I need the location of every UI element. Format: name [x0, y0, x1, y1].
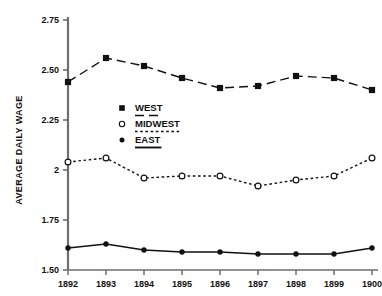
y-axis-tick-label: 1.50 [41, 265, 59, 275]
data-point-east [141, 247, 146, 252]
data-point-east [369, 245, 374, 250]
data-point-midwest [293, 177, 299, 183]
data-point-west [255, 83, 261, 89]
legend-marker-midwest [119, 121, 124, 126]
y-axis-tick-label: 2 [54, 165, 59, 175]
data-point-east [255, 251, 260, 256]
data-point-west [65, 79, 71, 85]
x-axis-tick-label: 1899 [324, 279, 344, 289]
series-line-midwest [68, 158, 372, 186]
x-axis-tick-label: 1895 [172, 279, 192, 289]
data-point-midwest [217, 173, 223, 179]
legend-marker-west [119, 105, 125, 111]
data-point-midwest [103, 155, 109, 161]
data-point-midwest [179, 173, 185, 179]
data-point-west [369, 87, 375, 93]
y-axis-tick-label: 2.75 [41, 15, 59, 25]
data-point-west [331, 75, 337, 81]
legend-label-west: WEST [135, 102, 163, 113]
chart-container: 2.752.502.2521.751.501892189318941895189… [0, 0, 382, 296]
data-point-east [293, 251, 298, 256]
data-point-midwest [141, 175, 147, 181]
data-point-west [293, 73, 299, 79]
data-point-east [103, 241, 108, 246]
x-axis-tick-label: 1892 [58, 279, 78, 289]
data-point-midwest [255, 183, 261, 189]
line-chart: 2.752.502.2521.751.501892189318941895189… [0, 0, 382, 296]
data-point-west [217, 85, 223, 91]
data-point-east [217, 249, 222, 254]
x-axis-tick-label: 1893 [96, 279, 116, 289]
x-axis-tick-label: 1900 [362, 279, 382, 289]
legend-label-midwest: MIDWEST [135, 118, 180, 129]
y-axis-tick-label: 1.75 [41, 215, 59, 225]
x-axis-tick-label: 1898 [286, 279, 306, 289]
y-axis-title: AVERAGE DAILY WAGE [14, 95, 24, 205]
data-point-east [65, 245, 70, 250]
data-point-west [179, 75, 185, 81]
x-axis-tick-label: 1896 [210, 279, 230, 289]
legend-marker-east [120, 138, 125, 143]
y-axis-tick-label: 2.50 [41, 65, 59, 75]
data-point-west [141, 63, 147, 69]
legend-label-east: EAST [135, 134, 161, 145]
y-axis-tick-label: 2.25 [41, 115, 59, 125]
x-axis-tick-label: 1894 [134, 279, 154, 289]
data-point-east [331, 251, 336, 256]
data-point-midwest [65, 159, 71, 165]
data-point-west [103, 55, 109, 61]
data-point-midwest [369, 155, 375, 161]
data-point-east [179, 249, 184, 254]
data-point-midwest [331, 173, 337, 179]
x-axis-tick-label: 1897 [248, 279, 268, 289]
